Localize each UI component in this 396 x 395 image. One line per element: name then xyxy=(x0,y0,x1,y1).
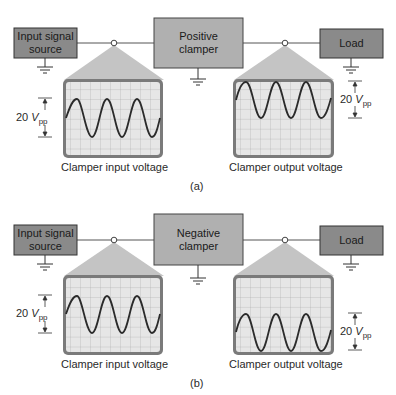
input-amplitude-label: 20 Vpp xyxy=(16,111,48,126)
input-caption: Clamper input voltage xyxy=(61,358,168,370)
clamper-label: Positiveclamper xyxy=(154,18,243,68)
probe-beam-input xyxy=(64,242,164,276)
amp-value: 20 xyxy=(340,325,352,337)
oscilloscope-output xyxy=(233,275,334,355)
oscilloscope-output xyxy=(233,79,334,158)
source-label-line1: Input signal xyxy=(17,227,73,239)
output-caption: Clamper output voltage xyxy=(229,161,343,173)
clamper-label-line2: clamper xyxy=(179,43,218,55)
amp-unit: V xyxy=(355,93,362,105)
ground-icon xyxy=(190,68,206,85)
ground-icon xyxy=(37,58,53,73)
clamper-label-line2: clamper xyxy=(179,240,218,252)
clamper-label-line1: Negative xyxy=(177,227,220,239)
output-amplitude-label: 20 Vpp xyxy=(340,325,372,340)
amp-value: 20 xyxy=(340,93,352,105)
amp-unit: V xyxy=(31,307,38,319)
clamper-label: Negativeclamper xyxy=(154,214,243,265)
amp-sub: pp xyxy=(363,99,372,108)
input-source-label: Input signalsource xyxy=(14,28,77,58)
probe-beam-input xyxy=(64,45,164,80)
ground-icon xyxy=(343,255,359,270)
probe-node-input xyxy=(111,40,117,46)
load-label-text: Load xyxy=(339,234,363,247)
probe-node-output xyxy=(282,237,288,243)
panel-tag-b: (b) xyxy=(190,377,203,389)
load-label: Load xyxy=(320,29,383,58)
panel-tag-a: (a) xyxy=(190,180,203,192)
output-amplitude-label: 20 Vpp xyxy=(340,93,372,108)
source-label-line2: source xyxy=(29,240,62,252)
input-amplitude-label: 20 Vpp xyxy=(16,307,48,322)
amp-value: 20 xyxy=(16,307,28,319)
probe-node-output xyxy=(282,40,288,46)
ground-icon xyxy=(37,255,53,270)
probe-beam-output xyxy=(234,242,334,276)
probe-node-input xyxy=(111,237,117,243)
source-label-line2: source xyxy=(29,43,62,55)
amp-value: 20 xyxy=(16,111,28,123)
ground-icon xyxy=(190,265,206,284)
input-source-label: Input signalsource xyxy=(14,225,77,255)
load-label: Load xyxy=(320,226,383,255)
amp-unit: V xyxy=(31,111,38,123)
amp-sub: pp xyxy=(39,117,48,126)
output-caption: Clamper output voltage xyxy=(229,358,343,370)
clamper-label-line1: Positive xyxy=(179,30,218,42)
oscilloscope-input xyxy=(63,79,163,158)
source-label-line1: Input signal xyxy=(17,30,73,42)
oscilloscope-input xyxy=(63,275,163,355)
ground-icon xyxy=(343,58,359,73)
amp-sub: pp xyxy=(39,313,48,322)
amp-sub: pp xyxy=(363,331,372,340)
amp-unit: V xyxy=(355,325,362,337)
load-label-text: Load xyxy=(339,37,363,50)
probe-beam-output xyxy=(234,45,334,80)
input-caption: Clamper input voltage xyxy=(61,161,168,173)
